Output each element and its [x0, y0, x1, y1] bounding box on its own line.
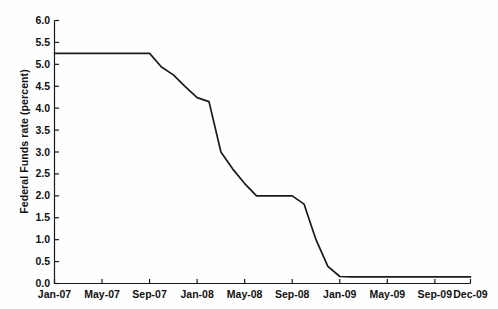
federal-funds-rate-chart: Federal Funds rate (percent) 0.00.51.01.… [0, 0, 498, 309]
data-series-group [55, 53, 471, 277]
plot-area [0, 0, 498, 309]
axis-lines [55, 21, 471, 284]
x-axis-ticks [55, 279, 471, 284]
y-axis-ticks [55, 21, 60, 284]
